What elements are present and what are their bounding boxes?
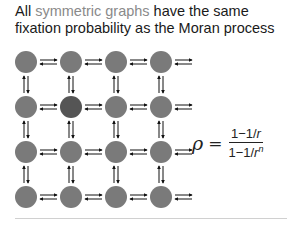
graph-node: [15, 51, 37, 73]
graph-node: [150, 51, 172, 73]
graph-nodes: [15, 51, 172, 208]
formula-rho: ρ: [192, 132, 203, 154]
graph-node: [105, 96, 127, 118]
graph-node: [150, 96, 172, 118]
graph-node: [15, 141, 37, 163]
fixation-formula: ρ = 1−1/r 1−1/rn: [192, 126, 263, 160]
graph-node: [15, 186, 37, 208]
formula-denominator: 1−1/rn: [228, 143, 263, 160]
graph-node: [15, 96, 37, 118]
formula-fraction: 1−1/r 1−1/rn: [228, 126, 263, 160]
graph-node: [60, 51, 82, 73]
lattice-graph: [0, 0, 287, 228]
graph-node: [105, 141, 127, 163]
graph-node: [105, 186, 127, 208]
graph-node: [60, 141, 82, 163]
graph-node-mutant: [60, 96, 82, 118]
graph-node: [150, 141, 172, 163]
graph-node: [60, 186, 82, 208]
graph-node: [150, 186, 172, 208]
graph-node: [105, 51, 127, 73]
divider: [15, 218, 287, 219]
formula-equals: =: [208, 133, 222, 153]
graph-edges: [24, 60, 192, 199]
formula-numerator: 1−1/r: [229, 126, 263, 143]
